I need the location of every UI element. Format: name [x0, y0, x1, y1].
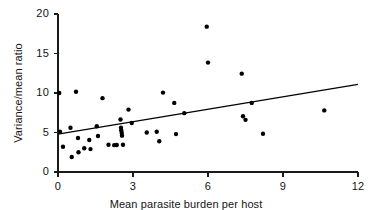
data-point — [61, 145, 65, 149]
data-point — [76, 136, 80, 140]
data-point — [70, 155, 74, 159]
x-tick-label: 0 — [38, 180, 78, 192]
data-point — [126, 107, 130, 111]
data-point — [121, 143, 125, 147]
data-point — [95, 124, 99, 128]
data-point — [115, 143, 119, 147]
data-point — [58, 130, 62, 134]
data-point — [206, 60, 210, 64]
data-point — [76, 150, 80, 154]
data-point — [82, 146, 86, 150]
data-point — [250, 101, 254, 105]
y-tick-label: 15 — [0, 47, 49, 59]
trend-line — [58, 84, 358, 134]
data-point — [205, 24, 209, 28]
data-point — [74, 90, 78, 94]
data-point — [240, 71, 244, 75]
data-point — [172, 101, 176, 105]
data-point — [182, 111, 186, 115]
x-tick-label: 6 — [188, 180, 228, 192]
data-point — [161, 90, 165, 94]
y-tick-label: 0 — [0, 165, 49, 177]
y-tick-label: 10 — [0, 86, 49, 98]
axis-ticks — [54, 14, 359, 177]
data-point — [243, 118, 247, 122]
plot-canvas — [0, 0, 372, 210]
data-point — [57, 91, 61, 95]
scatter-plot-figure: 05101520 036912 Variance/mean ratio Mean… — [0, 0, 372, 210]
data-point — [155, 130, 159, 134]
x-tick-label: 3 — [113, 180, 153, 192]
data-point — [145, 130, 149, 134]
y-tick-label: 20 — [0, 7, 49, 19]
data-point — [106, 143, 110, 147]
data-point — [68, 126, 72, 130]
x-tick-label: 9 — [263, 180, 303, 192]
data-point — [322, 108, 326, 112]
data-point — [241, 114, 245, 118]
x-axis-label: Mean parasite burden per host — [0, 198, 372, 210]
data-point — [157, 139, 161, 143]
data-point — [261, 131, 265, 135]
data-point — [174, 132, 178, 136]
data-point — [100, 96, 104, 100]
data-point — [87, 138, 91, 142]
data-point — [96, 134, 100, 138]
data-points — [57, 24, 326, 159]
data-point — [130, 121, 134, 125]
y-axis-label: Variance/mean ratio — [12, 43, 24, 143]
axis-lines — [58, 14, 358, 172]
data-point — [120, 133, 124, 137]
y-tick-label: 5 — [0, 126, 49, 138]
x-tick-label: 12 — [338, 180, 372, 192]
data-point — [88, 147, 92, 151]
data-point — [118, 117, 122, 121]
